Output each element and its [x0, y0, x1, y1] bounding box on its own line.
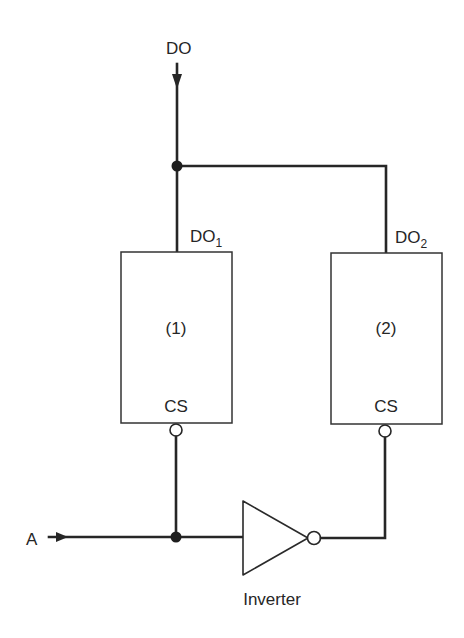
- chip1-output-label: DO1: [190, 227, 223, 250]
- inverter-gate: [243, 501, 321, 575]
- chip-2-cs-label: CS: [374, 397, 398, 416]
- chip2-output-label: DO2: [395, 228, 428, 251]
- inverter-output-wire: [321, 438, 385, 538]
- inverter-bubble-icon: [308, 532, 321, 545]
- chip-2-cs-bubble-icon: [379, 425, 391, 437]
- chip-1-cs-bubble-icon: [170, 424, 182, 436]
- inverter-triangle-icon: [243, 501, 308, 575]
- input-arrow-icon: [49, 532, 243, 542]
- bottom-junction-dot: [171, 532, 182, 543]
- input-a-label: A: [26, 530, 38, 549]
- output-arrow-icon: [172, 64, 182, 166]
- chip-1: (1) CS: [121, 252, 232, 423]
- chip-1-name: (1): [166, 319, 187, 338]
- chip-2-name: (2): [376, 319, 397, 338]
- circuit-diagram: DO DO1 DO2 (1) CS (2) CS A: [0, 0, 464, 638]
- inverter-label: Inverter: [243, 590, 301, 609]
- output-bus-label: DO: [166, 39, 192, 58]
- chip-2: (2) CS: [331, 253, 442, 424]
- top-junction-dot: [172, 161, 183, 172]
- chip-1-cs-label: CS: [164, 397, 188, 416]
